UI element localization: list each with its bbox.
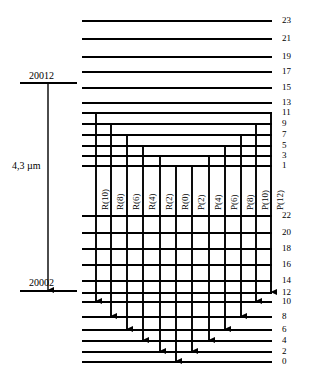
lower-level-number-20: 20 <box>282 227 291 237</box>
transition-label-P(8): P(8) <box>245 195 255 211</box>
lower-state-label: 20002 <box>29 277 54 288</box>
lower-level-number-10: 10 <box>282 296 291 306</box>
transition-label-R(4): R(4) <box>147 194 157 211</box>
upper-level-number-13: 13 <box>282 97 291 107</box>
lower-level-number-22: 22 <box>282 210 291 220</box>
upper-level-number-21: 21 <box>282 33 291 43</box>
transition-label-P(6): P(6) <box>229 195 239 211</box>
lower-level-number-6: 6 <box>282 324 287 334</box>
upper-level-number-23: 23 <box>282 15 291 25</box>
transition-label-P(12): P(12) <box>275 190 285 210</box>
diagram-svg <box>0 0 317 369</box>
transition-label-R(8): R(8) <box>115 194 125 211</box>
wavelength-label: 4,3 µm <box>12 160 41 171</box>
transition-label-P(10): P(10) <box>260 190 270 210</box>
transition-label-P(4): P(4) <box>213 195 223 211</box>
upper-level-number-1: 1 <box>282 160 287 170</box>
transition-label-R(0): R(0) <box>180 194 190 211</box>
upper-level-number-7: 7 <box>282 129 287 139</box>
transition-label-R(10): R(10) <box>100 189 110 210</box>
lower-level-number-0: 0 <box>282 356 287 366</box>
lower-level-number-14: 14 <box>282 275 291 285</box>
upper-level-number-5: 5 <box>282 140 287 150</box>
upper-level-number-19: 19 <box>282 51 291 61</box>
upper-level-number-15: 15 <box>282 82 291 92</box>
upper-level-number-11: 11 <box>282 107 291 117</box>
lower-level-number-18: 18 <box>282 243 291 253</box>
transition-label-P(2): P(2) <box>196 195 206 211</box>
lower-level-number-8: 8 <box>282 311 287 321</box>
upper-level-number-17: 17 <box>282 66 291 76</box>
transition-label-R(6): R(6) <box>131 194 141 211</box>
upper-state-label: 20012 <box>29 70 54 81</box>
upper-level-number-9: 9 <box>282 118 287 128</box>
upper-level-number-3: 3 <box>282 150 287 160</box>
transition-label-R(2): R(2) <box>164 194 174 211</box>
lower-level-number-2: 2 <box>282 346 287 356</box>
energy-level-diagram: 2321191715131197531 2220181614121086420 … <box>0 0 317 369</box>
transition-arrows <box>96 113 271 361</box>
lower-level-number-4: 4 <box>282 335 287 345</box>
lower-level-number-16: 16 <box>282 259 291 269</box>
wavelength-scale-arrow <box>20 83 77 291</box>
